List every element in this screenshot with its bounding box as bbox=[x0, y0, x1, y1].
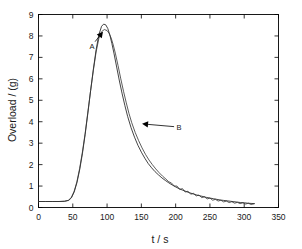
y-axis-title: Overload / (g) bbox=[6, 78, 18, 142]
y-axis-tick-labels: 0123456789 bbox=[29, 10, 34, 213]
data-series-group bbox=[39, 24, 255, 204]
x-tick-label: 250 bbox=[203, 212, 217, 222]
y-tick-label: 9 bbox=[29, 10, 34, 20]
y-tick-label: 8 bbox=[29, 31, 34, 41]
x-tick-label: 300 bbox=[237, 212, 251, 222]
x-tick-label: 0 bbox=[36, 212, 41, 222]
axes-frame bbox=[39, 15, 279, 208]
y-tick-label: 2 bbox=[29, 160, 34, 170]
y-tick-label: 0 bbox=[29, 203, 34, 213]
x-axis-tick-labels: 050100150200250300350 bbox=[36, 212, 286, 222]
annotation-arrowhead-b bbox=[142, 121, 148, 127]
annotation-label-a: A bbox=[89, 42, 94, 51]
x-tick-label: 100 bbox=[100, 212, 114, 222]
y-tick-label: 7 bbox=[29, 52, 34, 62]
y-tick-label: 3 bbox=[29, 138, 34, 148]
annotation-label-b: B bbox=[177, 123, 182, 132]
data-series-a bbox=[39, 24, 255, 203]
chart-figure: 050100150200250300350 0123456789 AB t / … bbox=[0, 0, 302, 249]
data-series-b bbox=[39, 30, 254, 205]
y-axis-ticks bbox=[39, 15, 279, 208]
annotation-arrow-b bbox=[148, 124, 174, 126]
x-tick-label: 350 bbox=[271, 212, 285, 222]
chart-plot-area: 050100150200250300350 0123456789 AB t / … bbox=[0, 0, 302, 249]
x-axis-ticks bbox=[39, 15, 279, 208]
y-tick-label: 6 bbox=[29, 74, 34, 84]
x-axis-title: t / s bbox=[152, 233, 169, 245]
x-tick-label: 150 bbox=[134, 212, 148, 222]
x-tick-label: 200 bbox=[169, 212, 183, 222]
y-tick-label: 1 bbox=[29, 181, 34, 191]
x-tick-label: 50 bbox=[68, 212, 78, 222]
y-tick-label: 4 bbox=[29, 117, 34, 127]
y-tick-label: 5 bbox=[29, 95, 34, 105]
annotations-group: AB bbox=[89, 32, 181, 132]
